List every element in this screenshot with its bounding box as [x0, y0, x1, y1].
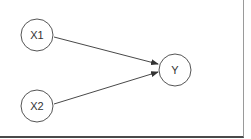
- diagram-canvas: X1 X2 Y: [0, 0, 251, 139]
- node-y-label: Y: [171, 64, 179, 76]
- node-x1: X1: [21, 19, 53, 51]
- node-x2-label: X2: [30, 100, 43, 112]
- edge-x1-to-y: [54, 37, 158, 64]
- node-y: Y: [159, 54, 191, 86]
- node-x2: X2: [21, 90, 53, 122]
- edge-x2-to-y: [54, 72, 158, 104]
- node-x1-label: X1: [30, 29, 43, 41]
